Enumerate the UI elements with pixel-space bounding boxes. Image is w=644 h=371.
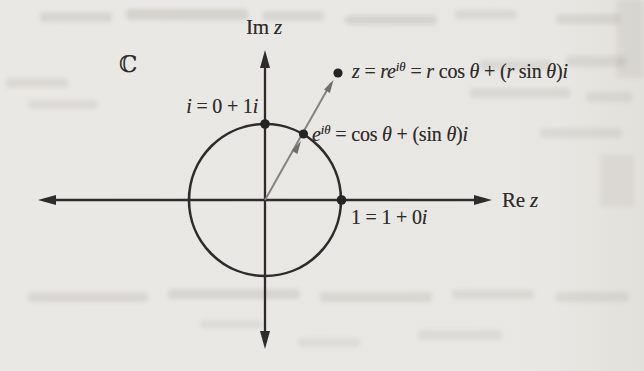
point-i-label: i = 0 + 1i bbox=[186, 94, 258, 118]
point-one-dot bbox=[337, 195, 347, 205]
point-e-itheta-dot bbox=[299, 129, 308, 138]
scanned-textbook-page: Im z ℂ i = 0 + 1i z = reiθ = r cos θ + (… bbox=[0, 0, 644, 371]
real-axis-left-arrowhead-icon bbox=[38, 195, 56, 205]
imaginary-axis-bottom-arrowhead-icon bbox=[260, 331, 270, 349]
complex-plane-symbol: ℂ bbox=[119, 52, 137, 76]
complex-plane-diagram bbox=[0, 0, 644, 371]
point-i-dot bbox=[260, 119, 270, 129]
imaginary-axis-label: Im z bbox=[246, 15, 282, 39]
real-axis-right-arrowhead-icon bbox=[474, 195, 492, 205]
point-z-label: z = reiθ = r cos θ + (r sin θ)i bbox=[352, 59, 568, 86]
imaginary-axis-top-arrowhead-icon bbox=[260, 50, 270, 68]
real-axis-label: Re z bbox=[502, 188, 538, 212]
point-e-itheta-label: eiθ = cos θ + (sin θ)i bbox=[312, 122, 468, 149]
point-one-label: 1 = 1 + 0i bbox=[351, 205, 427, 229]
point-z-dot bbox=[333, 68, 342, 77]
